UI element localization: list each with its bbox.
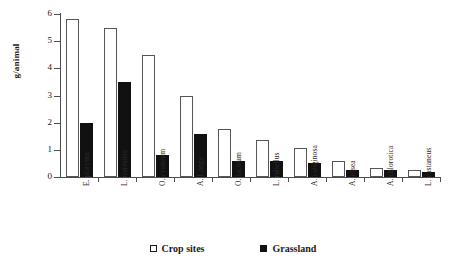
bar-crop-sites [370, 168, 383, 178]
x-axis-tick [440, 177, 441, 182]
x-axis-category-label: L. rubellus [272, 152, 281, 186]
x-axis-category-label: L. castaneus [424, 148, 433, 186]
bar-group [98, 14, 136, 177]
bar-group [326, 14, 364, 177]
bar-crop-sites [408, 170, 421, 177]
bar-group [212, 14, 250, 177]
bar-crop-sites [332, 161, 345, 177]
bar-group [364, 14, 402, 177]
filled-square-icon [260, 245, 267, 252]
bar-crop-sites [218, 129, 231, 177]
bar-crop-sites [294, 148, 307, 177]
y-axis-tick [54, 177, 60, 178]
bar-crop-sites [256, 140, 269, 177]
plot-area [60, 14, 440, 177]
legend-label-crop-sites: Crop sites [162, 243, 205, 254]
y-axis-tick-label: 6 [30, 8, 52, 18]
x-axis-category-label: E. platyura [82, 152, 91, 186]
x-axis-tick [136, 177, 137, 182]
y-axis-tick-label: 5 [30, 35, 52, 45]
bar-group [174, 14, 212, 177]
x-axis-category-label: O. cyaneum [158, 149, 167, 186]
y-axis-tick-label: 1 [30, 144, 52, 154]
x-axis-category-label: O. lacteum [234, 152, 243, 186]
legend-label-grassland: Grassland [272, 243, 316, 254]
open-square-icon [150, 245, 157, 252]
bar-group [402, 14, 440, 177]
bar-group [250, 14, 288, 177]
x-axis-category-label: A. caliginosa [310, 145, 319, 186]
bar-group [60, 14, 98, 177]
x-axis-tick [402, 177, 403, 182]
x-axis-tick [364, 177, 365, 182]
bar-group [288, 14, 326, 177]
bar-crop-sites [142, 55, 155, 177]
bar-crop-sites [104, 28, 117, 177]
bar-group [136, 14, 174, 177]
x-axis-tick [250, 177, 251, 182]
y-axis-tick-label: 3 [30, 90, 52, 100]
x-axis-category-label: A. chlorotica [386, 146, 395, 186]
y-axis-tick-label: 4 [30, 62, 52, 72]
bar-crop-sites [180, 96, 193, 178]
y-axis-tick-label: 0 [30, 171, 52, 181]
x-axis-tick [288, 177, 289, 182]
legend-item-crop-sites: Crop sites [150, 243, 205, 254]
x-axis-category-label: L. terrestris [120, 150, 129, 186]
bar-chart-figure: g/animal 0123456 E. platyuraL. terrestri… [0, 0, 466, 266]
bar-crop-sites [66, 19, 79, 177]
legend-item-grassland: Grassland [260, 243, 316, 254]
x-axis-category-label: A. rosea [348, 160, 357, 186]
x-axis-tick [326, 177, 327, 182]
x-axis-category-label: A. Longa [196, 157, 205, 186]
x-axis-tick [174, 177, 175, 182]
x-axis-tick [212, 177, 213, 182]
x-axis-tick [98, 177, 99, 182]
y-axis-tick-label: 2 [30, 117, 52, 127]
y-axis-title: g/animal [11, 16, 21, 106]
chart-legend: Crop sites Grassland [0, 243, 466, 254]
